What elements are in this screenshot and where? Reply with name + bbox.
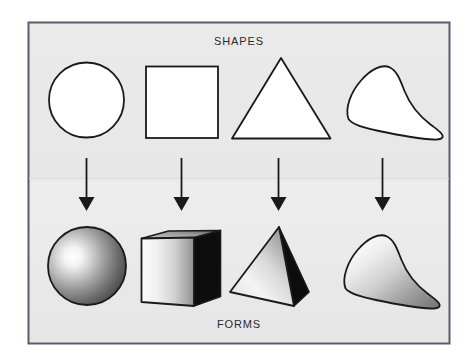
diagram-canvas: SHAPES <box>0 0 475 358</box>
shape-square <box>146 67 218 139</box>
shapes-title: SHAPES <box>214 35 264 47</box>
shape-circle <box>49 63 124 138</box>
form-sphere <box>48 227 126 305</box>
forms-title: FORMS <box>217 318 261 330</box>
cube-front-face <box>142 238 195 307</box>
shapes-forms-diagram: SHAPES <box>0 0 475 358</box>
form-cube <box>142 231 221 307</box>
cube-side-face <box>194 231 221 307</box>
